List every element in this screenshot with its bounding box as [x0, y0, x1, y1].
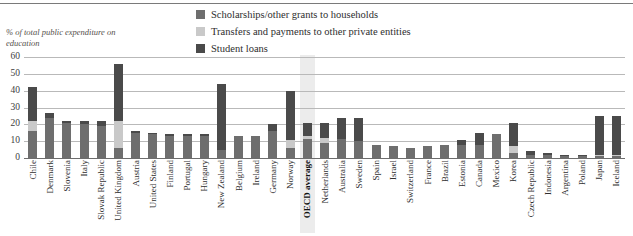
bar-column[interactable]: [556, 57, 573, 158]
stacked-bar[interactable]: [492, 134, 501, 158]
bar-column[interactable]: [282, 57, 299, 158]
stacked-bar[interactable]: [423, 146, 432, 158]
stacked-bar[interactable]: [131, 131, 140, 158]
bar-column[interactable]: [144, 57, 161, 158]
stacked-bar[interactable]: [28, 87, 37, 158]
top-divider: [0, 3, 633, 4]
stacked-bar[interactable]: [560, 155, 569, 158]
stacked-bar[interactable]: [509, 123, 518, 158]
y-axis-caption: % of total public expenditure on educati…: [6, 27, 141, 48]
bar-column[interactable]: [419, 57, 436, 158]
bar-segment: [423, 146, 432, 158]
bar-column[interactable]: [436, 57, 453, 158]
stacked-bar[interactable]: [372, 145, 381, 158]
bar-column[interactable]: [350, 57, 367, 158]
bar-column[interactable]: [76, 57, 93, 158]
x-label-slot: United Kingdom: [110, 160, 127, 236]
stacked-bar[interactable]: [268, 124, 277, 158]
bar-column[interactable]: [299, 57, 316, 158]
stacked-bar[interactable]: [475, 133, 484, 158]
bar-column[interactable]: [608, 57, 625, 158]
stacked-bar[interactable]: [526, 151, 535, 158]
bar-column[interactable]: [247, 57, 264, 158]
stacked-bar[interactable]: [578, 155, 587, 158]
x-label-slot: Austria: [127, 160, 144, 236]
stacked-bar[interactable]: [612, 116, 621, 158]
legend-swatch-student-loans: [196, 44, 205, 53]
stacked-bar[interactable]: [97, 121, 106, 158]
stacked-bar-chart: Scholarships/other grants to households …: [0, 0, 633, 236]
stacked-bar[interactable]: [251, 136, 260, 158]
bar-column[interactable]: [93, 57, 110, 158]
stacked-bar[interactable]: [595, 116, 604, 158]
x-axis-label: Japan: [595, 160, 604, 181]
bar-column[interactable]: [179, 57, 196, 158]
stacked-bar[interactable]: [165, 134, 174, 158]
x-axis-label: Mexico: [492, 160, 501, 188]
bar-column[interactable]: [488, 57, 505, 158]
stacked-bar[interactable]: [200, 134, 209, 158]
x-label-slot: Italy: [76, 160, 93, 236]
x-axis-label: Austria: [131, 160, 140, 187]
stacked-bar[interactable]: [337, 118, 346, 158]
bar-column[interactable]: [196, 57, 213, 158]
x-axis-label: OECD average: [303, 160, 312, 218]
stacked-bar[interactable]: [320, 123, 329, 158]
bar-column[interactable]: [58, 57, 75, 158]
bar-segment: [268, 131, 277, 158]
stacked-bar[interactable]: [45, 113, 54, 158]
bar-column[interactable]: [333, 57, 350, 158]
bar-column[interactable]: [402, 57, 419, 158]
stacked-bar[interactable]: [62, 121, 71, 158]
stacked-bar[interactable]: [543, 153, 552, 158]
x-label-slot: Argentina: [556, 160, 573, 236]
stacked-bar[interactable]: [354, 118, 363, 158]
legend-item-scholarships: Scholarships/other grants to households: [196, 7, 411, 22]
bar-column[interactable]: [127, 57, 144, 158]
stacked-bar[interactable]: [217, 84, 226, 158]
bar-segment: [578, 156, 587, 158]
x-label-slot: Japan: [591, 160, 608, 236]
stacked-bar[interactable]: [440, 145, 449, 158]
bar-column[interactable]: [574, 57, 591, 158]
bar-column[interactable]: [24, 57, 41, 158]
bar-column[interactable]: [264, 57, 281, 158]
stacked-bar[interactable]: [234, 136, 243, 158]
stacked-bar[interactable]: [303, 123, 312, 158]
bar-segment: [492, 134, 501, 158]
bar-column[interactable]: [41, 57, 58, 158]
stacked-bar[interactable]: [406, 148, 415, 158]
bar-segment: [475, 133, 484, 145]
x-label-slot: Hungary: [196, 160, 213, 236]
x-label-slot: Spain: [367, 160, 384, 236]
stacked-bar[interactable]: [286, 91, 295, 158]
bar-column[interactable]: [522, 57, 539, 158]
stacked-bar[interactable]: [457, 140, 466, 159]
stacked-bar[interactable]: [389, 146, 398, 158]
bar-column[interactable]: [316, 57, 333, 158]
bar-column[interactable]: [230, 57, 247, 158]
bar-segment: [440, 145, 449, 158]
bar-column[interactable]: [591, 57, 608, 158]
bar-column[interactable]: [367, 57, 384, 158]
bar-segment: [148, 134, 157, 158]
bar-column[interactable]: [213, 57, 230, 158]
bar-column[interactable]: [505, 57, 522, 158]
legend-swatch-scholarships: [196, 10, 205, 19]
stacked-bar[interactable]: [114, 64, 123, 158]
stacked-bar[interactable]: [183, 134, 192, 158]
y-tick-label-0: 0: [0, 153, 20, 163]
bar-column[interactable]: [453, 57, 470, 158]
bar-segment: [114, 148, 123, 158]
stacked-bar[interactable]: [80, 121, 89, 158]
bar-column[interactable]: [110, 57, 127, 158]
bar-column[interactable]: [161, 57, 178, 158]
bar-segment: [28, 131, 37, 158]
x-axis-label: Estonia: [457, 160, 466, 187]
bar-column[interactable]: [539, 57, 556, 158]
bar-column[interactable]: [385, 57, 402, 158]
stacked-bar[interactable]: [148, 133, 157, 158]
bar-column[interactable]: [470, 57, 487, 158]
x-label-slot: Estonia: [453, 160, 470, 236]
x-axis-label: Czech Republic: [526, 160, 535, 217]
